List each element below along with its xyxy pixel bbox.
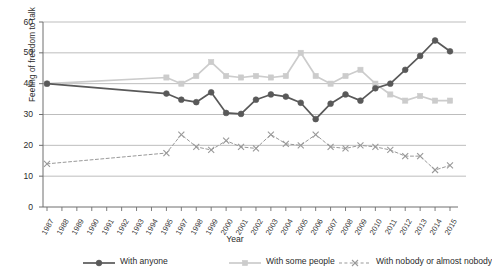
legend-swatch-square-icon <box>228 255 262 267</box>
legend-swatch-circle-icon <box>82 255 116 267</box>
legend-label: With anyone <box>120 256 168 266</box>
legend-label: With nobody or almost nobody <box>376 256 492 266</box>
legend-swatch-x-icon <box>338 255 372 267</box>
series-2 <box>44 132 453 173</box>
legend-item-1[interactable]: With some people <box>228 252 335 270</box>
chart-legend: With anyoneWith some peopleWith nobody o… <box>0 252 470 274</box>
legend-label: With some people <box>266 256 335 266</box>
legend-item-0[interactable]: With anyone <box>82 252 168 270</box>
legend-item-2[interactable]: With nobody or almost nobody <box>338 252 492 270</box>
x-axis-title: Year <box>0 234 470 244</box>
series-1 <box>44 50 452 103</box>
